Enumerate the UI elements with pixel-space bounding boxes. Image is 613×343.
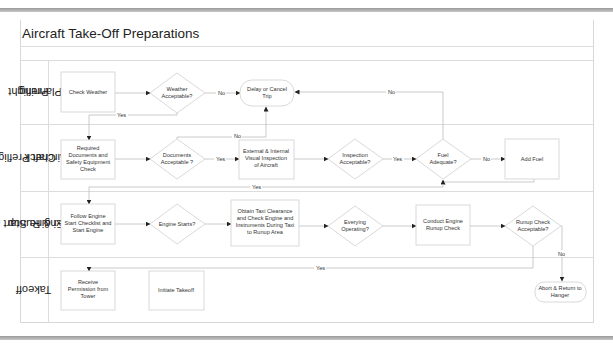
svg-text:Abort & Return to: Abort & Return to: [538, 285, 581, 291]
svg-text:Everying: Everying: [344, 219, 366, 225]
svg-text:Start Engine: Start Engine: [73, 227, 104, 233]
edge-runup-yes: [89, 246, 533, 271]
node-inspection-acceptable[interactable]: Inspection Acceptable?: [328, 139, 383, 179]
svg-text:Add Fuel: Add Fuel: [521, 156, 543, 162]
svg-text:Instruments During Taxi: Instruments During Taxi: [236, 222, 295, 228]
svg-text:of Aircraft: of Aircraft: [254, 162, 278, 168]
svg-text:Documents: Documents: [163, 152, 191, 158]
svg-text:Runup Check: Runup Check: [426, 225, 460, 231]
svg-text:Acceptable?: Acceptable?: [340, 159, 371, 165]
node-fuel-adequate[interactable]: Fuel Adequate?: [416, 139, 471, 179]
node-external-internal-inspection[interactable]: External & Internal Visual Inspection of…: [239, 140, 294, 179]
svg-text:Operating?: Operating?: [341, 226, 369, 232]
svg-text:Documents and: Documents and: [68, 152, 107, 158]
svg-text:Inspection: Inspection: [342, 152, 368, 158]
node-add-fuel[interactable]: Add Fuel: [505, 139, 559, 179]
flowchart-canvas: No Yes No Yes Yes No No Yes Yes No Check…: [0, 0, 613, 343]
svg-text:Receive: Receive: [78, 279, 98, 285]
label-fuel-no-delay: No: [388, 89, 395, 95]
svg-text:Obtain Taxi Clearance: Obtain Taxi Clearance: [238, 208, 293, 214]
svg-text:Conduct Engine: Conduct Engine: [423, 218, 463, 224]
node-obtain-taxi-clearance[interactable]: Obtain Taxi Clearance and Check Engine a…: [231, 200, 299, 246]
label-inspection-yes: Yes: [393, 156, 402, 162]
label-runup-yes: Yes: [316, 265, 325, 271]
svg-text:Weather: Weather: [166, 86, 187, 92]
svg-text:Acceptable?: Acceptable?: [518, 226, 549, 232]
edge-fuel-no-delay: [295, 92, 443, 139]
svg-text:Safety Equipment: Safety Equipment: [66, 159, 111, 165]
node-receive-permission[interactable]: Receive Permission from Tower: [61, 271, 115, 310]
node-initiate-takeoff[interactable]: Initiate Takeoff: [149, 271, 204, 310]
svg-text:Start Checklist and: Start Checklist and: [65, 220, 112, 226]
label-documents-yes: Yes: [216, 156, 225, 162]
svg-text:Required: Required: [77, 145, 100, 151]
svg-text:Follow Engine: Follow Engine: [70, 213, 105, 219]
node-check-weather[interactable]: Check Weather: [61, 72, 115, 112]
label-documents-no: No: [234, 133, 241, 139]
node-runup-check-acceptable[interactable]: Runup Check Acceptable?: [505, 206, 561, 246]
node-everying-operating[interactable]: Everying Operating?: [328, 206, 383, 246]
node-follow-engine-start[interactable]: Follow Engine Start Checklist and Start …: [61, 204, 115, 244]
edge-documents-no: [177, 107, 266, 139]
svg-text:Trip: Trip: [262, 93, 271, 99]
node-engine-starts[interactable]: Engine Starts?: [150, 204, 205, 244]
node-weather-acceptable[interactable]: Weather Acceptable?: [150, 73, 205, 113]
edges: [89, 92, 562, 281]
edge-weather-yes: [89, 113, 177, 140]
label-fuel-no-add: No: [483, 156, 490, 162]
label-weather-yes: Yes: [117, 112, 126, 118]
node-abort-return-hanger[interactable]: Abort & Return to Hanger: [535, 282, 586, 302]
svg-text:Acceptable?: Acceptable?: [162, 93, 193, 99]
edge-addfuel-loop: [443, 179, 534, 182]
edge-labels: No Yes No Yes Yes No No Yes Yes No: [116, 88, 566, 271]
svg-text:Fuel: Fuel: [438, 152, 449, 158]
svg-text:Check Weather: Check Weather: [69, 89, 108, 95]
svg-text:Permission from: Permission from: [68, 286, 109, 292]
svg-text:and Check Engine and: and Check Engine and: [237, 215, 294, 221]
svg-text:to Runup Area: to Runup Area: [247, 229, 284, 235]
svg-text:Delay or Cancel: Delay or Cancel: [247, 86, 287, 92]
svg-text:Visual Inspection: Visual Inspection: [245, 155, 287, 161]
svg-text:Runup Check: Runup Check: [516, 219, 550, 225]
node-delay-cancel-trip[interactable]: Delay or Cancel Trip: [240, 80, 294, 106]
svg-text:Check: Check: [80, 166, 96, 172]
svg-text:Engine Starts?: Engine Starts?: [159, 221, 196, 227]
label-fuel-yes: Yes: [252, 184, 261, 190]
label-runup-no: No: [558, 251, 565, 257]
svg-text:Initiate Takeoff: Initiate Takeoff: [158, 287, 194, 293]
svg-text:Adequate?: Adequate?: [429, 159, 456, 165]
node-required-documents[interactable]: Required Documents and Safety Equipment …: [61, 140, 115, 179]
svg-text:Tower: Tower: [81, 293, 96, 299]
node-conduct-engine-runup[interactable]: Conduct Engine Runup Check: [416, 205, 470, 245]
svg-text:Acceptable ?: Acceptable ?: [161, 159, 193, 165]
node-documents-acceptable[interactable]: Documents Acceptable ?: [150, 139, 205, 179]
svg-text:Hanger: Hanger: [551, 292, 569, 298]
label-weather-no: No: [218, 90, 225, 96]
svg-text:External & Internal: External & Internal: [243, 148, 289, 154]
